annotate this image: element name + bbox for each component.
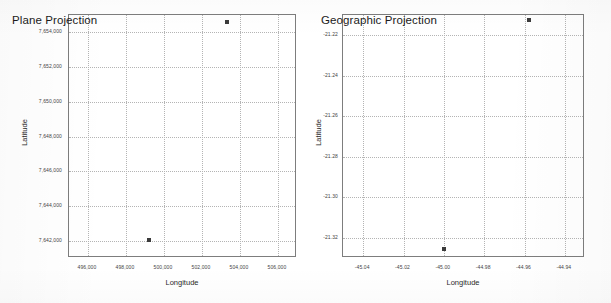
x-tick-label: -45.02 xyxy=(395,264,410,270)
y-tick-label: -21.30 xyxy=(312,193,338,199)
gridline-horizontal xyxy=(343,76,583,77)
gridline-vertical xyxy=(240,15,241,256)
y-tick-label: 7,654,000 xyxy=(16,28,62,34)
y-tick-label: -21.32 xyxy=(312,234,338,240)
x-tick-label: 498,000 xyxy=(116,264,135,270)
plane-projection-plot-area xyxy=(68,14,296,257)
y-tick-label: 7,644,000 xyxy=(16,202,62,208)
gridline-vertical xyxy=(278,15,279,256)
data-point-marker xyxy=(527,18,531,22)
x-tick-label: -44.98 xyxy=(476,264,491,270)
gridline-horizontal xyxy=(69,102,295,103)
geographic-projection-panel: Geographic Projection -21.22-21.24-21.26… xyxy=(311,0,611,303)
gridline-horizontal xyxy=(69,206,295,207)
x-tick-label: 506,000 xyxy=(268,264,287,270)
x-tick-label: -44.94 xyxy=(556,264,571,270)
gridline-vertical xyxy=(202,15,203,256)
gridline-horizontal xyxy=(343,238,583,239)
plane-projection-x-axis-label: Longitude xyxy=(166,278,199,287)
gridline-horizontal xyxy=(343,157,583,158)
data-point-marker xyxy=(442,247,446,251)
gridline-horizontal xyxy=(343,116,583,117)
geographic-projection-y-axis-label: Latitude xyxy=(314,103,323,163)
plane-projection-title: Plane Projection xyxy=(12,14,97,26)
gridline-horizontal xyxy=(69,137,295,138)
y-tick-label: 7,646,000 xyxy=(16,167,62,173)
gridline-horizontal xyxy=(343,35,583,36)
y-tick-label: 7,642,000 xyxy=(16,237,62,243)
x-tick-label: -45.00 xyxy=(435,264,450,270)
y-tick-label: -21.24 xyxy=(312,72,338,78)
x-tick-label: 502,000 xyxy=(192,264,211,270)
geographic-projection-x-axis-label: Longitude xyxy=(447,278,480,287)
plane-projection-y-axis-label: Latitude xyxy=(20,103,29,163)
plane-projection-panel: Plane Projection 7,654,0007,652,0007,650… xyxy=(0,0,311,303)
x-tick-label: 504,000 xyxy=(230,264,249,270)
gridline-vertical xyxy=(484,15,485,256)
y-tick-label: 7,652,000 xyxy=(16,63,62,69)
x-tick-label: 500,000 xyxy=(154,264,173,270)
gridline-vertical xyxy=(404,15,405,256)
y-tick-label: -21.22 xyxy=(312,31,338,37)
gridline-horizontal xyxy=(343,197,583,198)
gridline-vertical xyxy=(444,15,445,256)
gridline-vertical xyxy=(126,15,127,256)
geographic-projection-title: Geographic Projection xyxy=(321,14,437,26)
gridline-vertical xyxy=(88,15,89,256)
x-tick-label: -44.96 xyxy=(516,264,531,270)
gridline-horizontal xyxy=(69,171,295,172)
data-point-marker xyxy=(225,20,229,24)
x-tick-label: -45.04 xyxy=(355,264,370,270)
gridline-vertical xyxy=(565,15,566,256)
gridline-vertical xyxy=(363,15,364,256)
gridline-horizontal xyxy=(69,241,295,242)
gridline-horizontal xyxy=(69,67,295,68)
gridline-vertical xyxy=(164,15,165,256)
gridline-horizontal xyxy=(69,32,295,33)
x-tick-label: 496,000 xyxy=(78,264,97,270)
projection-comparison-figure: Plane Projection 7,654,0007,652,0007,650… xyxy=(0,0,611,303)
gridline-vertical xyxy=(525,15,526,256)
data-point-marker xyxy=(147,238,151,242)
geographic-projection-plot-area xyxy=(342,14,584,257)
